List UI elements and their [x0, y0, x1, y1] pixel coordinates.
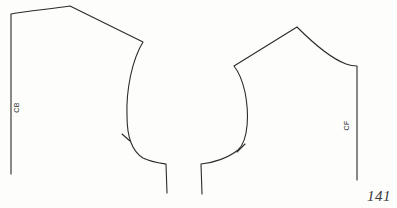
front-armhole-notch-icon [237, 144, 245, 152]
pattern-page: CB CF 141 [0, 0, 397, 208]
pattern-drawing [0, 0, 397, 208]
front-bodice-piece [201, 27, 357, 194]
page-number: 141 [367, 188, 391, 205]
back-bodice-outline [11, 6, 167, 193]
grainline-label-cf: CF [343, 120, 350, 130]
back-bodice-piece [11, 6, 167, 193]
grainline-label-cb: CB [13, 102, 20, 113]
front-bodice-outline [201, 27, 357, 194]
